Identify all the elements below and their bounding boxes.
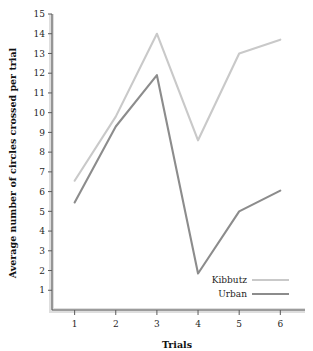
axis-shadow — [49, 14, 305, 313]
y-tick-label: 15 — [34, 9, 46, 19]
axis-lines — [52, 14, 305, 310]
y-tick-label: 4 — [39, 226, 45, 236]
chart-canvas: 123456789101112131415123456KibbutzUrban … — [0, 0, 313, 351]
x-tick-label: 5 — [236, 319, 242, 329]
y-tick-label: 10 — [34, 108, 46, 118]
y-tick-label: 2 — [39, 266, 45, 276]
y-tick-label: 1 — [39, 285, 45, 295]
legend-label-kibbutz: Kibbutz — [212, 275, 248, 285]
y-tick-label: 11 — [34, 88, 45, 98]
y-tick-label: 9 — [39, 128, 45, 138]
series-line-kibbutz — [75, 34, 281, 181]
plot-layer: 123456789101112131415123456KibbutzUrban — [34, 9, 305, 329]
x-tick-label: 1 — [72, 319, 78, 329]
y-tick-label: 14 — [34, 29, 46, 39]
legend-label-urban: Urban — [218, 289, 247, 299]
y-tick-label: 8 — [39, 147, 45, 157]
series-line-urban — [75, 75, 281, 273]
x-tick-label: 2 — [113, 319, 119, 329]
y-tick-label: 6 — [39, 187, 45, 197]
y-axis-title: Average number of circles crossed per tr… — [7, 47, 18, 279]
y-tick-label: 7 — [39, 167, 45, 177]
legend: KibbutzUrban — [212, 275, 289, 299]
y-tick-label: 13 — [34, 49, 46, 59]
line-chart: 123456789101112131415123456KibbutzUrban … — [0, 0, 313, 351]
y-tick-label: 3 — [39, 246, 45, 256]
x-tick-label: 3 — [154, 319, 160, 329]
x-tick-label: 4 — [195, 319, 201, 329]
x-tick-label: 6 — [277, 319, 283, 329]
y-tick-label: 5 — [39, 207, 45, 217]
x-axis-title: Trials — [162, 339, 192, 350]
y-tick-label: 12 — [34, 68, 45, 78]
